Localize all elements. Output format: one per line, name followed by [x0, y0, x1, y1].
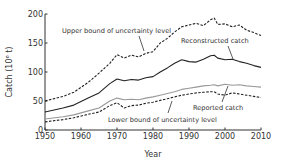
x-tick-label: 1980 — [143, 132, 163, 141]
x-axis-label: Year — [144, 150, 163, 159]
x-tick-label: 2000 — [215, 132, 235, 141]
annotation-leader-line — [139, 36, 144, 51]
x-tick-label: 1990 — [179, 132, 199, 141]
series-reported-catch — [45, 84, 261, 119]
x-tick-label: 2010 — [251, 132, 271, 141]
x-tick-label: 1960 — [71, 132, 91, 141]
annotation-label: Upper bound of uncertainty level — [62, 27, 171, 35]
annotation-label: Reconstructed catch — [181, 37, 249, 45]
annotation-leader-line — [228, 46, 233, 59]
y-tick-label: 150 — [28, 39, 43, 48]
annotation-label: Reported catch — [193, 104, 243, 112]
catch-line-chart: 0501001502001950196019701980199020002010… — [0, 0, 285, 163]
annotation-leader-line — [168, 101, 172, 113]
y-tick-label: 200 — [28, 10, 43, 19]
annotation-label: Lower bound of uncertainty level — [108, 116, 217, 124]
y-axis-label: Catch (10⁶ t) — [5, 47, 14, 98]
x-tick-label: 1950 — [35, 132, 55, 141]
x-tick-label: 1970 — [107, 132, 127, 141]
y-tick-label: 100 — [28, 68, 43, 77]
y-tick-label: 50 — [33, 97, 43, 106]
